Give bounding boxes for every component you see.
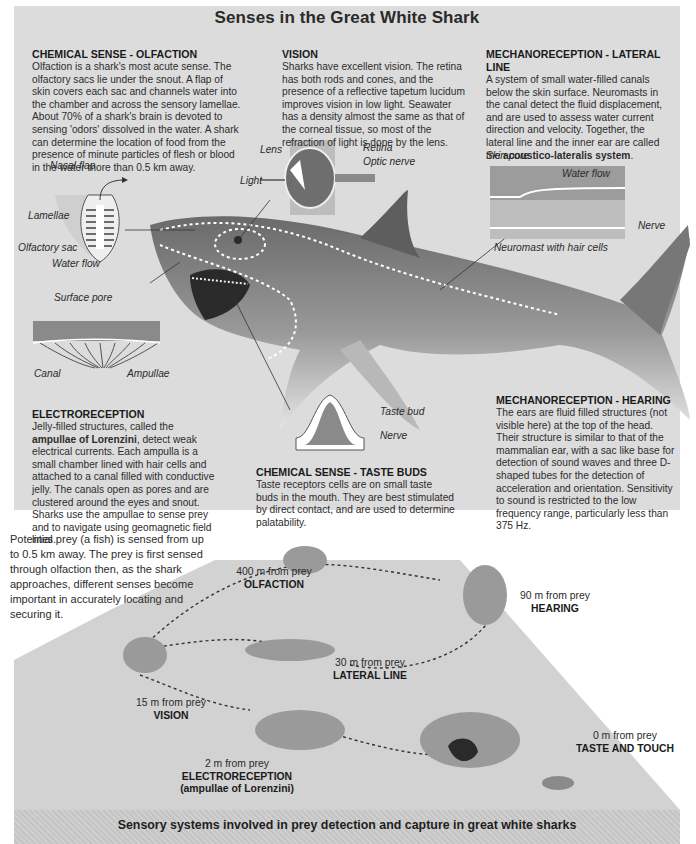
sequence-intro: Potential prey (a fish) is sensed from u… <box>10 532 210 622</box>
electroreception-bold-term: ampullae of Lorenzini <box>32 434 137 445</box>
label-ampullae: Ampullae <box>127 368 169 379</box>
label-nerve-lateral: Nerve <box>638 220 665 231</box>
lateral-line-heading: MECHANORECEPTION - LATERAL LINE <box>486 48 674 74</box>
stage-sense: LATERAL LINE <box>320 670 420 683</box>
label-skin-pore: Skin pore <box>486 150 529 161</box>
stage-lateral-line: 30 m from prey LATERAL LINE <box>320 657 420 682</box>
label-neuromast: Neuromast with hair cells <box>494 242 608 253</box>
label-canal: Canal <box>34 368 61 379</box>
stage-taste-touch: 0 m from prey TASTE AND TOUCH <box>570 730 680 755</box>
hearing-heading: MECHANORECEPTION - HEARING <box>496 394 678 407</box>
stage-distance: 400 m from prey <box>236 566 312 577</box>
label-lens: Lens <box>260 144 282 155</box>
label-nerve-taste: Nerve <box>380 430 407 441</box>
label-surface-pore: Surface pore <box>54 292 112 303</box>
label-olfactory-sac: Olfactory sac <box>18 242 77 253</box>
olfaction-heading: CHEMICAL SENSE - OLFACTION <box>32 48 242 61</box>
stage-hearing: 90 m from prey HEARING <box>510 590 600 615</box>
label-retina: Retina <box>363 142 392 153</box>
vision-section: VISION Sharks have excellent vision. The… <box>282 48 470 149</box>
olfaction-body: Olfaction is a shark's most acute sense.… <box>32 61 242 174</box>
stage-vision: 15 m from prey VISION <box>126 697 216 722</box>
label-nasal-flap: Nasal flap <box>50 160 95 171</box>
stage-sense: OLFACTION <box>224 579 324 592</box>
label-light: Light <box>240 175 262 186</box>
label-optic-nerve: Optic nerve <box>363 156 415 167</box>
vision-body: Sharks have excellent vision. The retina… <box>282 61 470 149</box>
stage-distance: 90 m from prey <box>520 590 590 601</box>
stage-electroreception: 2 m from prey ELECTRORECEPTION (ampullae… <box>172 758 302 796</box>
stage-sense: ELECTRORECEPTION <box>172 771 302 784</box>
hearing-body: The ears are fluid filled structures (no… <box>496 407 678 533</box>
caption-banner: Sensory systems involved in prey detecti… <box>14 810 680 844</box>
label-water-flow: Water flow <box>52 258 100 269</box>
electroreception-body-text: Jelly-filled structures, called the <box>32 421 174 432</box>
stage-sense: TASTE AND TOUCH <box>570 743 680 756</box>
taste-heading: CHEMICAL SENSE - TASTE BUDS <box>256 466 456 479</box>
label-lamellae: Lamellae <box>28 210 69 221</box>
olfaction-section: CHEMICAL SENSE - OLFACTION Olfaction is … <box>32 48 242 174</box>
stage-sense: VISION <box>126 710 216 723</box>
lateral-line-body: A system of small water-filled canals be… <box>486 74 674 162</box>
stage-distance: 0 m from prey <box>593 730 657 741</box>
stage-distance: 15 m from prey <box>136 697 206 708</box>
stage-sense-detail: (ampullae of Lorenzini) <box>172 783 302 796</box>
vision-heading: VISION <box>282 48 470 61</box>
stage-olfaction: 400 m from prey OLFACTION <box>224 566 324 591</box>
hearing-section: MECHANORECEPTION - HEARING The ears are … <box>496 394 678 533</box>
lateral-line-section: MECHANORECEPTION - LATERAL LINE A system… <box>486 48 674 162</box>
label-water-flow-lateral: Water flow <box>562 168 610 179</box>
lateral-line-body-end: . <box>630 150 633 161</box>
stage-sense: HEARING <box>510 603 600 616</box>
lateral-line-body-text: A system of small water-filled canals be… <box>486 74 662 161</box>
stage-distance: 2 m from prey <box>205 758 269 769</box>
caption-text: Sensory systems involved in prey detecti… <box>14 818 680 832</box>
stage-distance: 30 m from prey <box>335 657 405 668</box>
electroreception-heading: ELECTRORECEPTION <box>32 408 220 421</box>
label-taste-bud: Taste bud <box>380 406 424 417</box>
